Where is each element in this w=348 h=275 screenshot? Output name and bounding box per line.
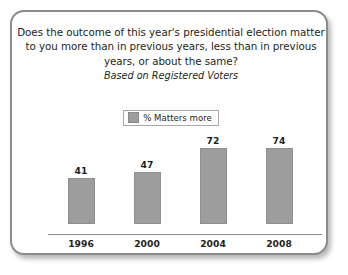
bar-value-2000: 47 [141, 160, 154, 170]
bar-value-1996: 41 [75, 166, 88, 176]
bar-1996 [68, 178, 95, 224]
chart-card: Does the outcome of this year's presiden… [10, 10, 328, 255]
bar-2000 [134, 172, 161, 224]
bar-2008 [266, 148, 293, 224]
chart-title-line-3: years, or about the same? [12, 54, 330, 68]
bar-group-2004: 72 [180, 136, 246, 224]
bar-value-2008: 74 [273, 136, 286, 146]
legend-item-matters-more: % Matters more [123, 110, 219, 126]
x-axis-labels: 1996 2000 2004 2008 [48, 238, 312, 254]
bar-group-1996: 41 [48, 136, 114, 224]
chart-legend: % Matters more [12, 110, 330, 126]
bar-group-2000: 47 [114, 136, 180, 224]
chart-title-block: Does the outcome of this year's presiden… [12, 25, 330, 83]
chart-subtitle: Based on Registered Voters [12, 69, 330, 83]
x-axis-line [48, 234, 322, 235]
bar-2004 [200, 148, 227, 224]
chart-plot-area: 41 47 72 74 [48, 136, 312, 224]
x-label-2004: 2004 [180, 238, 246, 250]
bar-value-2004: 72 [207, 136, 220, 146]
x-label-1996: 1996 [48, 238, 114, 250]
x-label-2000: 2000 [114, 238, 180, 250]
legend-label: % Matters more [143, 113, 212, 123]
chart-title-line-2: to you more than in previous years, less… [12, 39, 330, 53]
legend-swatch-icon [128, 112, 139, 123]
bar-group-2008: 74 [246, 136, 312, 224]
chart-title-line-1: Does the outcome of this year's presiden… [12, 25, 330, 39]
x-label-2008: 2008 [246, 238, 312, 250]
